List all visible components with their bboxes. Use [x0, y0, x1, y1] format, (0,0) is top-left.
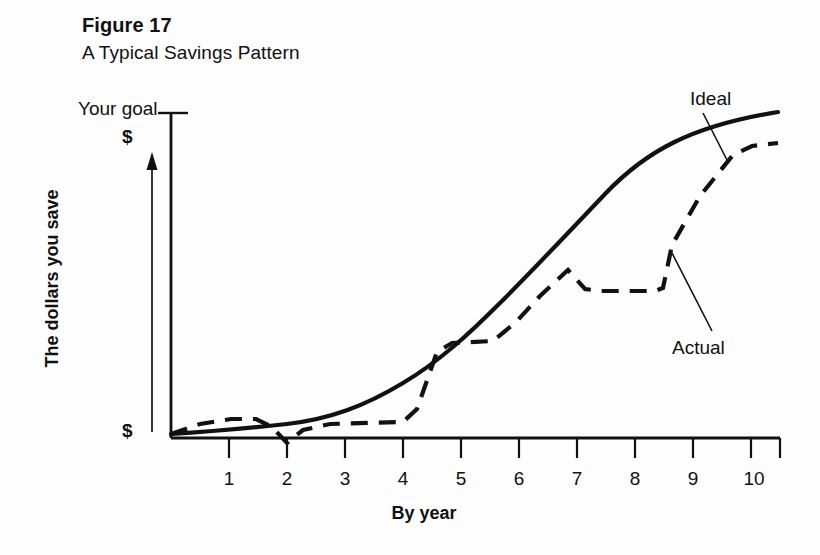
growth-arrow-icon — [147, 152, 158, 432]
x-axis-ticks — [229, 438, 780, 458]
series-line-actual — [171, 143, 778, 443]
leader-line-actual — [672, 253, 712, 331]
plot-area — [0, 0, 820, 555]
leader-line-ideal — [703, 113, 727, 160]
figure-container: Figure 17 A Typical Savings Pattern The … — [0, 0, 820, 555]
series-line-ideal — [171, 112, 778, 434]
